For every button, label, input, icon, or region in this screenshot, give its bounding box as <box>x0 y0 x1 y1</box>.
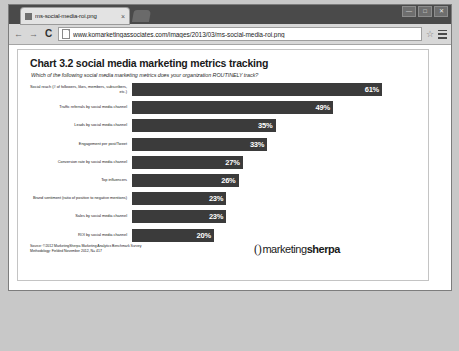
bar-track: 23% <box>132 192 419 205</box>
close-tab-icon[interactable]: × <box>121 13 125 20</box>
bar-category-label: Top influencers <box>27 178 132 183</box>
chart-image: Chart 3.2 social media marketing metrics… <box>17 49 429 281</box>
page-document-icon <box>62 29 70 39</box>
bar-row: Top influencers26% <box>27 174 419 187</box>
reload-icon[interactable]: C <box>43 29 54 39</box>
hamburger-menu-icon[interactable] <box>438 30 447 39</box>
bar-value-label: 49% <box>315 103 329 112</box>
new-tab-button[interactable] <box>132 10 151 22</box>
window-controls: — □ ✕ <box>402 6 448 17</box>
browser-tab[interactable]: ms-social-media-roi.png × <box>21 8 129 24</box>
bar-fill: 27% <box>132 156 243 169</box>
bar-value-label: 23% <box>209 194 223 203</box>
bar-value-label: 23% <box>209 212 223 221</box>
bar-fill: 33% <box>132 138 267 151</box>
bar-fill: 49% <box>132 101 333 114</box>
tab-strip: ms-social-media-roi.png × — □ ✕ <box>9 5 451 24</box>
image-file-icon <box>25 13 32 20</box>
bar-category-label: Leads by social media channel <box>27 123 132 128</box>
logo-text-light: marketing <box>262 243 306 255</box>
bar-category-label: Conversion rate by social media channel <box>27 160 132 165</box>
bar-row: Engagement per post/Tweet33% <box>27 138 419 151</box>
bar-category-label: Sales by social media channel <box>27 214 132 219</box>
bar-value-label: 26% <box>221 176 235 185</box>
bar-value-label: 20% <box>197 231 211 240</box>
logo-text-bold: sherpa <box>307 243 340 255</box>
bar-category-label: Brand sentiment (ratio of positive to ne… <box>27 196 132 201</box>
bar-row: Social reach (# of followers, likes, mem… <box>27 83 419 96</box>
bar-track: 23% <box>132 210 419 223</box>
bar-category-label: Social reach (# of followers, likes, mem… <box>27 85 132 95</box>
back-icon[interactable]: ← <box>13 30 24 39</box>
chart-footer: Source: ©2012 MarketingSherpa Marketing … <box>30 244 418 255</box>
bar-value-label: 33% <box>250 140 264 149</box>
tab-title: ms-social-media-roi.png <box>35 13 118 19</box>
bar-fill: 20% <box>132 229 214 242</box>
bar-fill: 23% <box>132 192 226 205</box>
browser-toolbar: ← → C www.komarketingassociates.com/imag… <box>9 24 451 45</box>
bookmark-star-icon[interactable]: ☆ <box>426 30 434 39</box>
bar-fill: 26% <box>132 174 239 187</box>
minimize-button[interactable]: — <box>402 6 416 17</box>
forward-icon[interactable]: → <box>28 30 39 39</box>
bar-track: 35% <box>132 119 419 132</box>
browser-window: ms-social-media-roi.png × — □ ✕ ← → C ww… <box>8 4 452 291</box>
bar-row: ROI by social media channel20% <box>27 229 419 242</box>
bar-row: Conversion rate by social media channel2… <box>27 156 419 169</box>
bar-chart-plot: Social reach (# of followers, likes, mem… <box>27 83 419 242</box>
bar-track: 26% <box>132 174 419 187</box>
maximize-button[interactable]: □ <box>418 6 432 17</box>
bar-value-label: 61% <box>365 85 379 94</box>
address-bar[interactable]: www.komarketingassociates.com/images/201… <box>58 27 422 41</box>
bar-category-label: Engagement per post/Tweet <box>27 142 132 147</box>
bar-track: 61% <box>132 83 419 96</box>
bar-fill: 23% <box>132 210 226 223</box>
bar-row: Leads by social media channel35% <box>27 119 419 132</box>
bar-row: Traffic referrals by social media channe… <box>27 101 419 114</box>
source-line-2: Methodology: Fielded November 2012, N= 4… <box>30 249 141 254</box>
url-text: www.komarketingassociates.com/images/201… <box>73 31 285 38</box>
chart-subtitle: Which of the following social media mark… <box>31 72 419 78</box>
chart-title: Chart 3.2 social media marketing metrics… <box>30 57 419 69</box>
bar-fill: 61% <box>132 83 382 96</box>
bar-fill: 35% <box>132 119 276 132</box>
bar-category-label: ROI by social media channel <box>27 233 132 238</box>
bar-value-label: 27% <box>225 158 239 167</box>
close-window-button[interactable]: ✕ <box>434 6 448 17</box>
bar-track: 20% <box>132 229 419 242</box>
source-note: Source: ©2012 MarketingSherpa Marketing … <box>30 244 141 254</box>
bar-track: 27% <box>132 156 419 169</box>
logo-text: marketingsherpa <box>262 244 340 255</box>
logo-mark-icon: () <box>254 243 262 255</box>
bar-value-label: 35% <box>258 121 272 130</box>
bar-track: 33% <box>132 138 419 151</box>
marketingsherpa-logo: () marketingsherpa <box>254 243 340 255</box>
bar-row: Brand sentiment (ratio of positive to ne… <box>27 192 419 205</box>
bar-track: 49% <box>132 101 419 114</box>
bar-row: Sales by social media channel23% <box>27 210 419 223</box>
page-viewport: Chart 3.2 social media marketing metrics… <box>9 45 451 290</box>
bar-category-label: Traffic referrals by social media channe… <box>27 105 132 110</box>
